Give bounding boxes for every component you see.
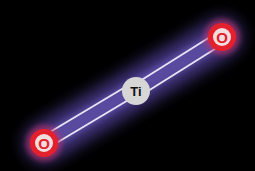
atom-label: O bbox=[38, 135, 50, 152]
atom-titanium: Ti bbox=[122, 77, 150, 105]
atom-oxygen-left: O bbox=[26, 125, 62, 161]
atom-oxygen-right: O bbox=[204, 19, 240, 55]
atom-label: Ti bbox=[130, 84, 141, 99]
molecule-svg: O Ti O bbox=[0, 0, 255, 171]
atom-label: O bbox=[216, 29, 228, 46]
